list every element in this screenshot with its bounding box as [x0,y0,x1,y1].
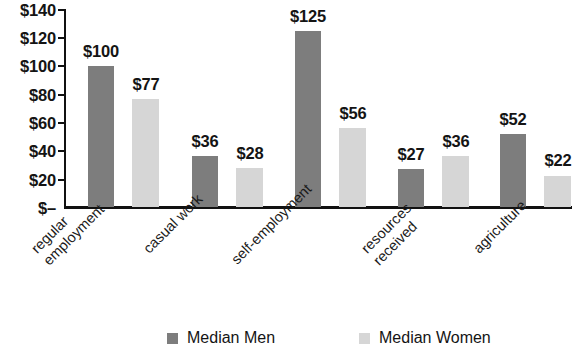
x-axis-label-resources-received: resources received [358,200,427,269]
y-tick-label: $60 [0,115,56,132]
bar-value-women: $77 [124,76,168,93]
bar-men[interactable] [500,134,526,207]
legend-item-median-women[interactable]: Median Women [359,330,491,346]
y-tick-mark [58,94,65,96]
x-axis-category-labels: regular employment casual work self-empl… [0,209,575,321]
bar-value-men: $125 [282,8,334,25]
bar-value-men: $100 [75,43,127,60]
legend-label: Median Men [187,330,275,346]
bar-group-resources-received: $27 $36 [394,0,476,207]
y-axis-labels: $140 $120 $100 $80 $60 $40 $20 $– [0,0,56,216]
legend-swatch-icon [359,333,370,344]
y-tick-label: $40 [0,143,56,160]
bar-value-women: $22 [536,152,575,169]
bar-group-casual-work: $36 $28 [188,0,270,207]
y-tick-label: $120 [0,30,56,47]
bar-women[interactable] [132,99,159,207]
bar-women[interactable] [442,156,469,207]
plot-area: $100 $77 $36 $28 $125 $56 $27 $36 [66,0,572,207]
y-tick-mark [58,65,65,67]
legend-swatch-icon [167,333,178,344]
y-tick-label: $80 [0,87,56,104]
bar-value-women: $36 [434,133,478,150]
y-tick-mark [58,122,65,124]
bar-value-men: $36 [182,133,228,150]
legend-label: Median Women [379,330,491,346]
y-axis-top-cap [58,9,66,11]
y-tick-mark [58,37,65,39]
bar-value-women: $56 [331,105,375,122]
bar-women[interactable] [544,176,571,207]
bar-group-regular-employment: $100 $77 [84,0,166,207]
bar-group-self-employment: $125 $56 [291,0,373,207]
legend-item-median-men[interactable]: Median Men [167,330,275,346]
bar-group-agriculture: $52 $22 [496,0,575,207]
bar-men[interactable] [88,66,114,207]
y-tick-mark [58,150,65,152]
bar-value-women: $28 [228,145,272,162]
bar-men[interactable] [295,31,321,207]
y-tick-label: $100 [0,58,56,75]
bar-value-men: $27 [388,146,434,163]
y-tick-label: $20 [0,172,56,189]
y-tick-label: $140 [0,2,56,19]
y-tick-mark [58,179,65,181]
bar-women[interactable] [339,128,366,207]
bar-chart: $140 $120 $100 $80 $60 $40 $20 $– $100 $… [0,0,575,360]
chart-legend: Median Men Median Women [0,330,575,356]
bar-women[interactable] [236,168,263,207]
bar-value-men: $52 [490,111,536,128]
